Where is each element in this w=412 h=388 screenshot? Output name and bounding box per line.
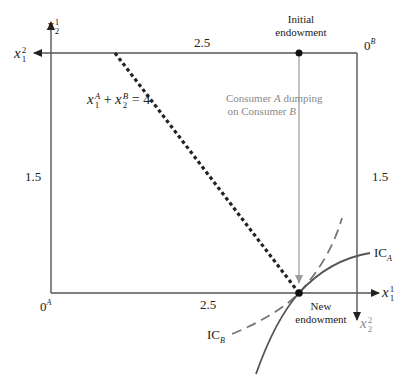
tick-label-left: 1.5 <box>25 170 41 183</box>
budget-line-equation: xA1 + xB2 = 4 <box>87 92 150 110</box>
ic-b-label: ICB <box>207 328 225 345</box>
budget-line <box>115 53 299 293</box>
initial-endowment-point <box>296 50 303 57</box>
tick-label-right: 1.5 <box>372 170 388 183</box>
axis-label-b-horizontal: x21 <box>14 46 26 64</box>
origin-b-label: 0B <box>364 38 375 52</box>
initial-endowment-label: Initialendowment <box>272 13 330 39</box>
axis-label-b-vertical: x22 <box>360 316 372 334</box>
axis-label-a-horizontal: x11 <box>382 285 394 303</box>
tick-label-top: 2.5 <box>194 36 210 49</box>
new-endowment-point <box>295 289 303 297</box>
axis-label-a-vertical: x12 <box>47 18 59 36</box>
box-frame <box>34 22 379 320</box>
edgeworth-box-diagram <box>0 0 412 388</box>
origin-a-label: 0A <box>40 299 51 313</box>
new-endowment-label: Newendowment <box>292 300 350 326</box>
dumping-annotation: Consumer A dumpingon Consumer B <box>226 92 296 118</box>
ic-a-label: ICA <box>374 246 392 263</box>
tick-label-bottom: 2.5 <box>200 298 216 311</box>
